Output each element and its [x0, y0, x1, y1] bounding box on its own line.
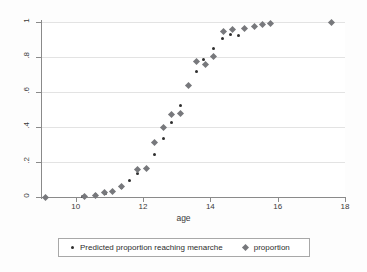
y-tick [36, 57, 41, 58]
y-tick [36, 162, 41, 163]
y-tick-label: .8 [22, 49, 31, 63]
legend-label-predicted: Predicted proportion reaching menarche [80, 243, 223, 252]
data-point-predicted [221, 37, 224, 40]
gridline [42, 162, 345, 163]
y-tick-label: 0 [22, 189, 31, 203]
y-tick [36, 127, 41, 128]
data-point-predicted [179, 104, 182, 107]
circle-marker-icon [71, 246, 74, 249]
x-tick-label: 10 [66, 202, 86, 211]
chart-legend: Predicted proportion reaching menarche p… [58, 238, 310, 257]
data-point-predicted [212, 47, 215, 50]
y-tick-label: 1 [22, 14, 31, 28]
x-tick-label: 14 [200, 202, 220, 211]
gridline [42, 92, 345, 93]
x-axis-label: age [0, 213, 367, 223]
gridline [42, 127, 345, 128]
x-tick-label: 12 [133, 202, 153, 211]
data-point-predicted [153, 153, 156, 156]
data-point-predicted [128, 179, 131, 182]
gridline [42, 22, 345, 23]
legend-item-predicted: Predicted proportion reaching menarche [71, 243, 223, 252]
plot-area [42, 22, 345, 197]
legend-item-proportion: proportion [243, 243, 290, 252]
diamond-marker-icon [242, 244, 249, 251]
x-tick-label: 16 [268, 202, 288, 211]
chart-figure: 0.2.4.6.81 1012141618 age Predicted prop… [0, 0, 367, 272]
y-tick [36, 197, 41, 198]
x-tick-label: 18 [335, 202, 355, 211]
gridline [42, 57, 345, 58]
y-tick [36, 92, 41, 93]
y-tick-label: .6 [22, 84, 31, 98]
data-point-predicted [162, 137, 165, 140]
y-tick-label: .4 [22, 119, 31, 133]
y-axis-line [41, 20, 42, 199]
y-tick [36, 22, 41, 23]
data-point-predicted [229, 33, 232, 36]
y-tick-label: .2 [22, 154, 31, 168]
legend-label-proportion: proportion [254, 243, 290, 252]
